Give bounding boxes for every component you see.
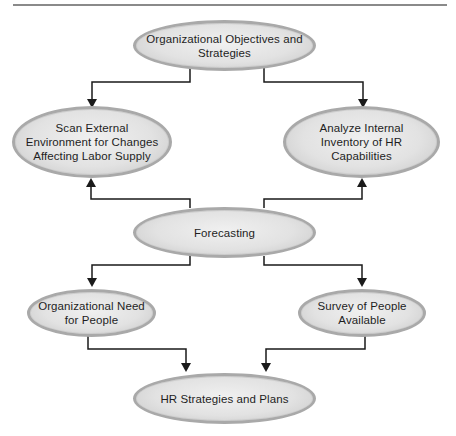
node-hr-strategies-and-plans: HR Strategies and Plans: [133, 373, 316, 424]
node-label-line: Affecting Labor Supply: [26, 149, 159, 163]
edge-forecasting-to-org-need: [92, 256, 190, 279]
node-label-line: Strategies: [146, 46, 302, 60]
node-forecasting: Forecasting: [133, 207, 316, 258]
node-label-line: HR Strategies and Plans: [160, 392, 288, 406]
node-label-line: for People: [38, 313, 145, 327]
node-organizational-need: Organizational Need for People: [27, 289, 156, 337]
node-label-line: Organizational Objectives and: [146, 32, 302, 46]
node-label-line: Capabilities: [319, 149, 403, 163]
node-label-line: Available: [317, 313, 406, 327]
node-organizational-objectives: Organizational Objectives and Strategies: [133, 20, 316, 71]
edge-forecasting-to-scan-external: [91, 186, 190, 208]
node-label-line: Forecasting: [194, 226, 255, 240]
node-label-line: Organizational Need: [38, 299, 145, 313]
edge-survey-people-to-hr-strategies: [266, 334, 365, 364]
node-label-line: Inventory of HR: [319, 135, 403, 149]
edge-org-need-to-hr-strategies: [88, 334, 186, 364]
node-analyze-internal-inventory: Analyze Internal Inventory of HR Capabil…: [283, 106, 440, 178]
node-survey-of-people: Survey of People Available: [298, 289, 426, 337]
node-label-line: Survey of People: [317, 299, 406, 313]
node-label-line: Scan External: [26, 121, 159, 135]
edge-objectives-to-scan-external: [92, 66, 190, 100]
edge-forecasting-to-analyze-internal: [264, 186, 362, 208]
node-scan-external-environment: Scan External Environment for Changes Af…: [12, 106, 172, 178]
node-label-line: Environment for Changes: [26, 135, 159, 149]
edge-forecasting-to-survey-people: [264, 256, 362, 279]
node-label-line: Analyze Internal: [319, 121, 403, 135]
edge-objectives-to-analyze-internal: [264, 66, 363, 100]
